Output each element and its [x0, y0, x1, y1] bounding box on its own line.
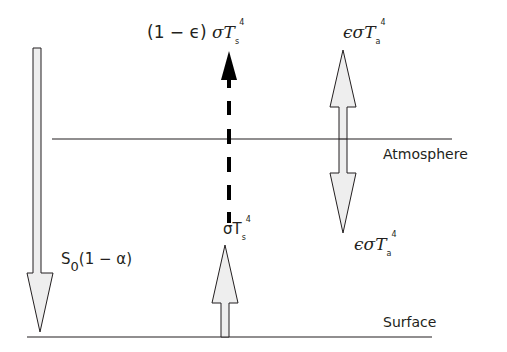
- atm-emission-up-label: ϵσTa4: [343, 24, 385, 44]
- atmosphere-label: Atmosphere: [383, 147, 468, 161]
- energy-balance-diagram: [0, 0, 507, 352]
- atm-emission-down-label: ϵσTa4: [354, 236, 396, 256]
- solar-incoming-arrow-icon: [27, 48, 53, 332]
- transmitted-radiation-arrow-icon: [221, 51, 237, 223]
- transmitted-radiation-label: (1 − ϵ) σTs4: [147, 24, 244, 44]
- atmospheric-emission-arrow-icon: [330, 50, 356, 233]
- surface-emission-arrow-icon: [212, 245, 238, 337]
- surface-emission-label: σTs4: [223, 222, 251, 240]
- solar-incoming-label: S0(1 − α): [61, 252, 132, 270]
- surface-label: Surface: [383, 315, 436, 329]
